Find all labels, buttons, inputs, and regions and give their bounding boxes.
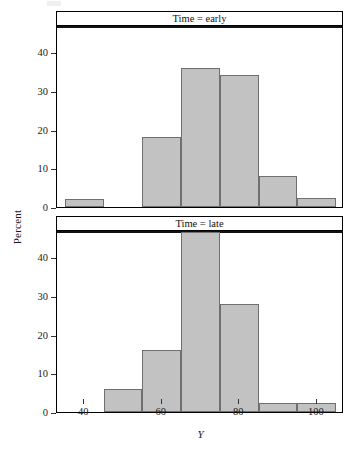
panel-late: Time = late (56, 216, 343, 413)
x-tick-mark (83, 399, 84, 404)
y-axis-tick: 40 (0, 53, 56, 54)
x-tick-label: 60 (147, 405, 175, 418)
y-tick-label: 0 (43, 201, 48, 214)
y-tick-label: 0 (43, 406, 48, 419)
x-tick-mark (238, 399, 239, 404)
histogram-bar (65, 199, 104, 207)
histogram-bar (220, 304, 259, 412)
y-tick-label: 40 (38, 251, 49, 264)
histogram-bar (142, 137, 181, 207)
y-tick-label: 20 (38, 124, 49, 137)
x-axis-ticks: 406080100 (56, 399, 343, 423)
strip-label-early: Time = early (56, 11, 343, 26)
y-tick-label: 30 (38, 290, 49, 303)
y-axis-tick: 20 (0, 131, 56, 132)
plot-area-late (56, 231, 343, 413)
bar-series-early (57, 28, 342, 207)
y-axis-tick: 0 (0, 208, 56, 209)
x-tick-label: 40 (69, 405, 97, 418)
x-tick-mark (161, 399, 162, 404)
panel-early: Time = early (56, 11, 343, 208)
y-tick-label: 10 (38, 162, 49, 175)
strip-label-late: Time = late (56, 216, 343, 231)
y-tick-label: 10 (38, 367, 49, 380)
y-axis-tick: 30 (0, 92, 56, 93)
y-tick-label: 40 (38, 46, 49, 59)
x-axis-title: Y (56, 428, 345, 440)
x-tick-label: 80 (224, 405, 252, 418)
y-tick-mark (51, 208, 56, 209)
x-tick-label: 100 (302, 405, 330, 418)
y-tick-label: 20 (38, 329, 49, 342)
bar-series-late (57, 233, 342, 412)
histogram-bar (297, 198, 336, 207)
plot-area-early (56, 26, 343, 208)
y-axis-tick: 10 (0, 374, 56, 375)
histogram-bar (181, 232, 220, 412)
scan-artifact (47, 1, 61, 6)
histogram-figure: Percent 010203040 010203040 Time = early… (0, 0, 346, 454)
y-axis-title: Percent (10, 0, 24, 454)
y-axis-tick: 40 (0, 258, 56, 259)
y-axis-tick: 0 (0, 413, 56, 414)
y-axis-tick: 20 (0, 336, 56, 337)
y-axis-tick: 10 (0, 169, 56, 170)
y-axis-tick: 30 (0, 297, 56, 298)
histogram-bar (220, 75, 259, 207)
y-tick-label: 30 (38, 85, 49, 98)
x-tick-mark (316, 399, 317, 404)
histogram-bar (259, 176, 298, 207)
histogram-bar (181, 68, 220, 207)
